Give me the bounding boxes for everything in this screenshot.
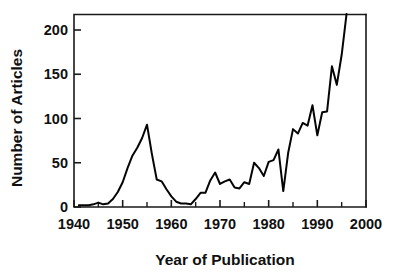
line-chart: 0501001502001940195019601970198019902000… (0, 0, 396, 273)
chart-tick-labels: 0501001502001940195019601970198019902000 (44, 22, 382, 232)
y-tick-label-100: 100 (44, 111, 68, 127)
x-tick-label-1960: 1960 (155, 216, 187, 232)
axis-frame (74, 15, 366, 208)
chart-ticks (74, 30, 366, 207)
x-tick-label-1970: 1970 (204, 216, 236, 232)
y-tick-label-0: 0 (60, 199, 68, 215)
x-tick-label-1990: 1990 (301, 216, 333, 232)
chart-page: 0501001502001940195019601970198019902000… (0, 0, 396, 273)
x-tick-label-1980: 1980 (253, 216, 285, 232)
x-tick-label-1950: 1950 (107, 216, 139, 232)
chart-series (79, 14, 347, 205)
y-tick-label-50: 50 (52, 155, 68, 171)
x-tick-label-2000: 2000 (350, 216, 382, 232)
y-tick-label-200: 200 (44, 22, 68, 38)
chart-axes (74, 15, 366, 208)
series-line-0 (79, 14, 347, 205)
x-axis-title: Year of Publication (155, 251, 295, 268)
x-tick-label-1940: 1940 (58, 216, 90, 232)
y-axis-title: Number of Articles (8, 49, 25, 187)
y-tick-label-150: 150 (44, 66, 68, 82)
